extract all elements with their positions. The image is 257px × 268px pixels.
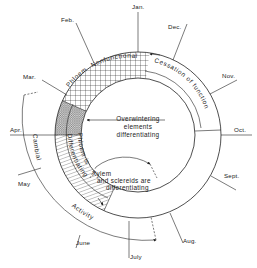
month-label-nov: Nov. <box>222 72 235 79</box>
aug-leader <box>170 213 183 243</box>
oct-separator <box>195 130 221 131</box>
cambial-label: Cambial <box>32 134 43 162</box>
cambial-end-dash <box>151 217 156 240</box>
month-label-apr: Apr. <box>10 126 22 133</box>
month-label-oct: Oct. <box>234 126 246 133</box>
cambial-start-dash <box>24 92 38 95</box>
month-label-june: June <box>76 239 91 246</box>
month-label-feb: Feb. <box>61 16 74 23</box>
may-leader <box>18 168 41 175</box>
xylem-text-line3: differentiating <box>106 184 149 192</box>
activity-label: Activity <box>71 202 96 222</box>
xylem-arc <box>96 157 150 167</box>
month-label-may: May <box>18 180 31 187</box>
phloem-annual-cycle-diagram: Jan. Feb. Mar. Apr. May June July Aug. S… <box>0 0 257 268</box>
center-text-line1: Overwintering <box>116 115 159 123</box>
month-label-july: July <box>130 253 143 260</box>
feb-leader <box>76 23 94 63</box>
mar-leader <box>42 80 67 95</box>
month-label-sept: Sept. <box>224 172 240 179</box>
month-label-jan: Jan. <box>132 3 145 10</box>
xylem-text-line2: and sclereids are <box>97 177 151 184</box>
jan-crosshatch-block <box>138 52 150 79</box>
month-label-mar: Mar. <box>23 73 36 80</box>
center-text-line2: elements <box>124 123 152 130</box>
nov-leader <box>210 80 237 94</box>
month-label-dec: Dec. <box>168 23 182 30</box>
month-label-aug: Aug. <box>183 237 197 244</box>
center-text-line3: differentiating <box>117 131 160 139</box>
xylem-end-dash <box>150 164 157 178</box>
